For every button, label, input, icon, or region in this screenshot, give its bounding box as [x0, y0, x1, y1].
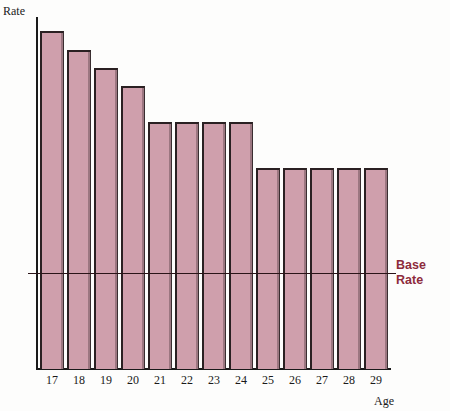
x-tick-label-22: 22 [174, 373, 200, 388]
x-tick-label-20: 20 [120, 373, 146, 388]
bar-age-29 [364, 168, 388, 369]
base-rate-label: Base Rate [396, 258, 426, 288]
bar-age-28 [337, 168, 361, 369]
x-tick-label-23: 23 [201, 373, 227, 388]
x-tick-label-29: 29 [363, 373, 389, 388]
bar-age-22 [175, 122, 199, 369]
bar-chart: Rate 17181920212223242526272829 Base Rat… [0, 0, 450, 411]
base-rate-line [28, 273, 396, 275]
x-tick-label-21: 21 [147, 373, 173, 388]
x-tick-label-19: 19 [93, 373, 119, 388]
x-tick-label-18: 18 [66, 373, 92, 388]
bar-age-25 [256, 168, 280, 369]
bar-age-18 [67, 50, 91, 369]
bar-age-19 [94, 68, 118, 369]
base-rate-label-line2: Rate [396, 273, 423, 287]
x-tick-label-25: 25 [255, 373, 281, 388]
bar-age-27 [310, 168, 334, 369]
bar-age-20 [121, 86, 145, 369]
bar-age-23 [202, 122, 226, 369]
x-tick-label-24: 24 [228, 373, 254, 388]
plot-area: 17181920212223242526272829 [0, 0, 450, 411]
base-rate-label-line1: Base [396, 258, 426, 272]
x-tick-label-27: 27 [309, 373, 335, 388]
bar-age-24 [229, 122, 253, 369]
x-axis-title: Age [374, 394, 394, 409]
x-tick-label-28: 28 [336, 373, 362, 388]
bar-age-17 [40, 31, 64, 369]
bar-age-26 [283, 168, 307, 369]
x-tick-label-17: 17 [39, 373, 65, 388]
x-tick-label-26: 26 [282, 373, 308, 388]
bar-age-21 [148, 122, 172, 369]
